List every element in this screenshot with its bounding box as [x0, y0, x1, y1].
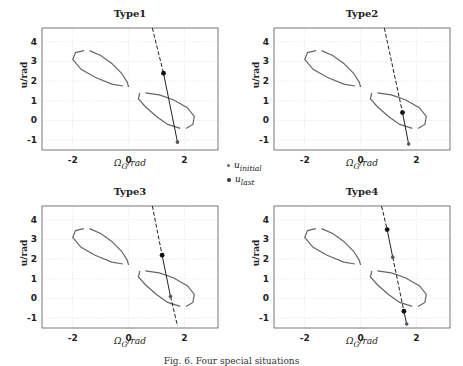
trajectory-line	[382, 206, 388, 230]
dot-icon	[227, 178, 231, 182]
axes-frame	[42, 206, 218, 328]
trajectory-line	[387, 230, 393, 258]
plot-area: -202-101234	[232, 0, 462, 175]
y-tick-label: -1	[259, 313, 269, 323]
y-tick-label: 3	[31, 234, 37, 244]
x-label-unit: /rad	[360, 158, 378, 168]
trajectory-line	[152, 28, 163, 73]
trajectory-line	[384, 28, 402, 113]
y-tick-label: 3	[31, 56, 37, 66]
y-tick-label: 3	[263, 234, 269, 244]
trajectory-loop	[90, 51, 129, 87]
small-dot-icon	[227, 164, 230, 167]
trajectory-loop	[145, 93, 194, 128]
legend: uinitial ulast	[227, 158, 262, 186]
legend-item-initial: uinitial	[227, 158, 262, 172]
x-label-unit: /rad	[128, 336, 146, 346]
trajectory-line	[164, 73, 178, 142]
y-tick-label: 2	[31, 254, 37, 264]
y-tick-label: 2	[263, 254, 269, 264]
trajectory-line	[403, 113, 409, 144]
panel-type4: Type4 -202-101234 u/rad ΩG/rad	[232, 178, 462, 353]
y-tick-label: 0	[263, 115, 269, 125]
figure-caption: Fig. 6. Four special situations	[0, 356, 463, 366]
trajectory-loop	[73, 51, 123, 86]
y-axis-label: u/rad	[19, 233, 29, 273]
axes-frame	[42, 28, 218, 150]
x-axis-label: ΩG/rad	[42, 158, 218, 171]
u-initial-marker	[405, 322, 409, 326]
u-initial-marker	[391, 255, 395, 259]
x-label-omega: Ω	[114, 158, 121, 168]
y-tick-label: -1	[27, 135, 37, 145]
y-tick-label: 1	[31, 274, 37, 284]
y-tick-label: 4	[263, 215, 269, 225]
y-tick-label: 0	[31, 115, 37, 125]
y-tick-label: -1	[27, 313, 37, 323]
plot-area: -202-101234	[0, 0, 230, 175]
y-tick-label: 0	[263, 293, 269, 303]
y-tick-label: 2	[31, 76, 37, 86]
y-tick-label: 1	[263, 96, 269, 106]
panel-type3: Type3 -202-101234 u/rad ΩG/rad	[0, 178, 230, 353]
u-initial-marker	[169, 295, 173, 299]
x-label-omega: Ω	[346, 336, 353, 346]
legend-item-last: ulast	[227, 172, 262, 186]
y-tick-label: -1	[259, 135, 269, 145]
x-label-omega: Ω	[346, 158, 353, 168]
trajectory-loop	[145, 271, 194, 307]
trajectory-loop	[73, 229, 123, 264]
trajectory-loop	[370, 271, 412, 307]
u-last-marker	[400, 110, 405, 115]
y-tick-label: 1	[31, 96, 37, 106]
panel-type2: Type2 -202-101234 u/rad ΩG/rad	[232, 0, 462, 175]
u-initial-marker	[407, 142, 411, 146]
x-axis-label: ΩG/rad	[274, 158, 450, 171]
legend-sub: last	[241, 178, 255, 187]
plot-area: -202-101234	[232, 178, 462, 353]
y-tick-label: 0	[31, 293, 37, 303]
trajectory-line	[171, 297, 178, 327]
y-tick-label: 3	[263, 56, 269, 66]
u-last-marker	[385, 227, 390, 232]
x-label-unit: /rad	[128, 158, 146, 168]
y-axis-label: u/rad	[251, 233, 261, 273]
y-tick-label: 4	[263, 37, 269, 47]
y-tick-label: 1	[263, 274, 269, 284]
u-last-marker	[161, 71, 166, 76]
panel-type1: Type1 -202-101234 u/rad ΩG/rad	[0, 0, 230, 175]
x-label-omega: Ω	[114, 336, 121, 346]
trajectory-loop	[138, 271, 180, 307]
x-axis-label: ΩG/rad	[42, 336, 218, 349]
x-label-unit: /rad	[360, 336, 378, 346]
y-axis-label: u/rad	[251, 55, 261, 95]
y-axis-label: u/rad	[19, 55, 29, 95]
trajectory-line	[152, 206, 162, 255]
u-last-marker	[160, 253, 165, 258]
trajectory-loop	[305, 51, 355, 86]
x-axis-label: ΩG/rad	[274, 336, 450, 349]
y-tick-label: 4	[31, 37, 37, 47]
plot-area: -202-101234	[0, 178, 230, 353]
trajectory-loop	[322, 51, 361, 87]
u-last-marker	[402, 309, 407, 314]
axes-frame	[274, 28, 450, 150]
axes-frame	[274, 206, 450, 328]
trajectory-loop	[305, 229, 355, 264]
trajectory-loop	[90, 229, 129, 265]
y-tick-label: 4	[31, 215, 37, 225]
u-initial-marker	[176, 140, 180, 144]
y-tick-label: 2	[263, 76, 269, 86]
trajectory-loop	[322, 229, 361, 265]
trajectory-loop	[370, 93, 412, 128]
